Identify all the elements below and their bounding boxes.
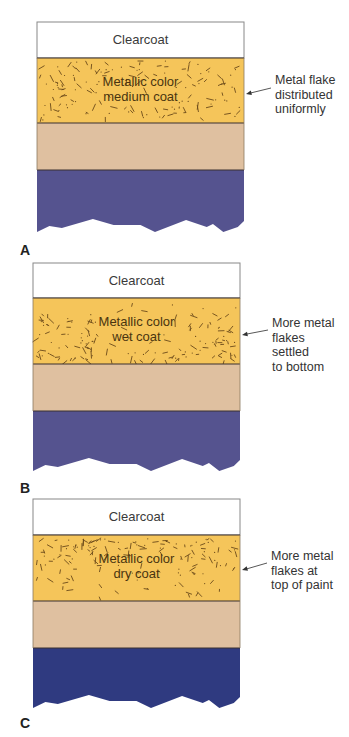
panel-letter: C bbox=[20, 715, 30, 731]
metallic-label-line2: dry coat bbox=[33, 566, 240, 581]
metallic-layer-label: Metallic color dry coat bbox=[33, 551, 240, 581]
arrowhead-icon bbox=[242, 566, 248, 570]
layer-stack-diagram bbox=[0, 0, 349, 737]
clearcoat-label: Clearcoat bbox=[33, 509, 240, 524]
metallic-label-line1: Metallic color bbox=[33, 551, 240, 566]
pointer-arrow bbox=[245, 563, 267, 569]
flake-annotation: More metal flakes at top of paint bbox=[271, 549, 334, 593]
